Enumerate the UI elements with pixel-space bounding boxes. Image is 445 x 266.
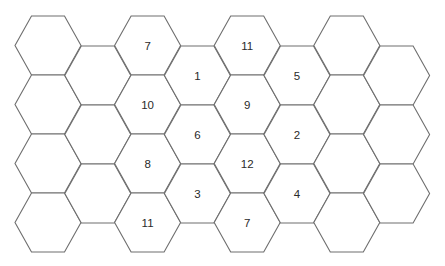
number-token: 5 [294,70,300,82]
number-token: 10 [141,99,154,111]
number-token: 1 [194,70,200,82]
hex-board: 710811163119127524 [0,0,445,266]
number-token: 9 [244,99,250,111]
number-token: 4 [294,188,301,200]
number-token: 11 [142,217,154,229]
number-token: 11 [241,40,253,52]
number-token: 8 [144,158,150,170]
number-token: 3 [194,188,200,200]
number-token: 12 [241,158,254,170]
number-token: 6 [194,129,200,141]
number-token: 2 [294,129,300,141]
number-token: 7 [144,40,150,52]
number-token: 7 [244,217,250,229]
